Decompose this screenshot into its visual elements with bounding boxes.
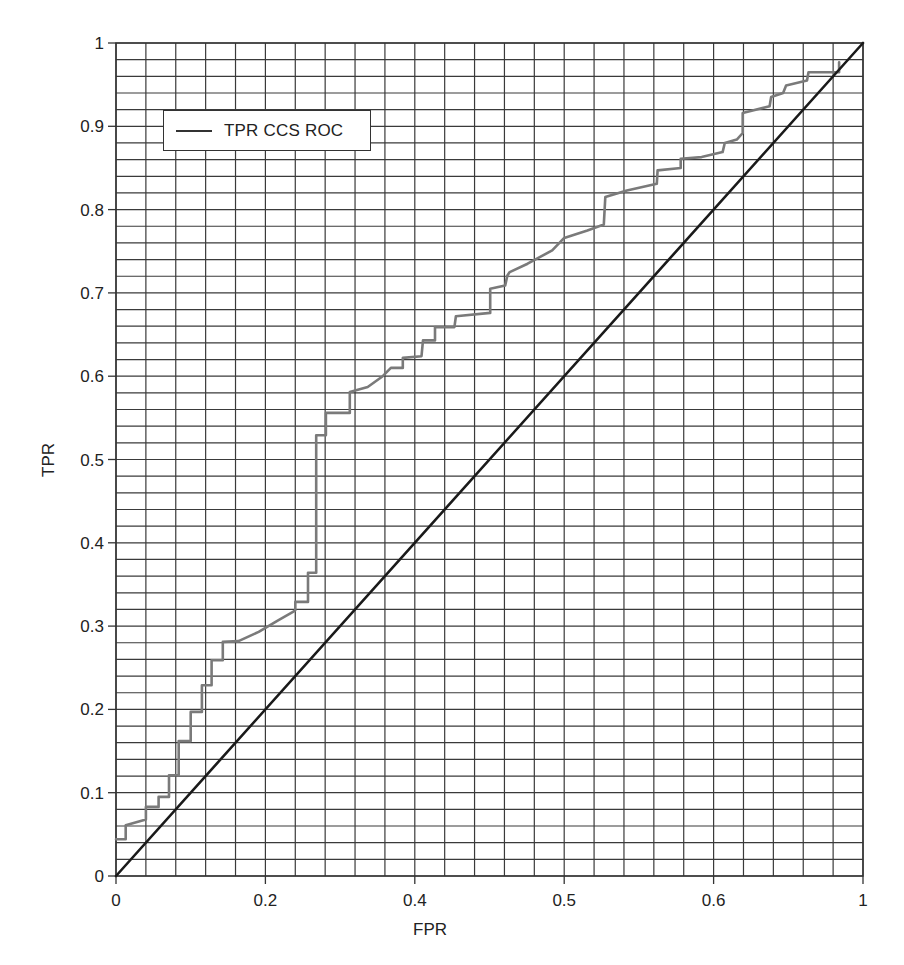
x-tick-label: 1: [858, 891, 867, 910]
y-tick-label: 1: [95, 34, 104, 53]
y-tick-label: 0.6: [80, 367, 104, 386]
y-tick-label: 0: [95, 867, 104, 886]
legend-line-swatch-icon: [176, 130, 212, 132]
y-tick-label: 0.8: [80, 201, 104, 220]
x-axis-title: FPR: [413, 920, 447, 939]
y-tick-label: 0.5: [80, 451, 104, 470]
legend: TPR CCS ROC: [163, 110, 371, 151]
y-tick-label: 0.2: [80, 700, 104, 719]
y-tick-label: 0.7: [80, 284, 104, 303]
y-tick-label: 0.9: [80, 117, 104, 136]
chart-canvas: 00.10.20.30.40.50.60.70.80.9100.20.40.50…: [0, 0, 904, 965]
roc-curve-line: [116, 62, 839, 839]
x-tick-label: 0.4: [403, 891, 427, 910]
x-tick-label: 0.5: [552, 891, 576, 910]
x-tick-label: 0.6: [702, 891, 726, 910]
y-tick-label: 0.4: [80, 534, 104, 553]
y-axis-title: TPR: [39, 443, 58, 477]
x-tick-label: 0.2: [254, 891, 278, 910]
y-tick-label: 0.1: [80, 784, 104, 803]
x-tick-label: 0: [111, 891, 120, 910]
roc-chart: 00.10.20.30.40.50.60.70.80.9100.20.40.50…: [0, 0, 904, 965]
y-tick-label: 0.3: [80, 617, 104, 636]
legend-label: TPR CCS ROC: [224, 121, 343, 141]
